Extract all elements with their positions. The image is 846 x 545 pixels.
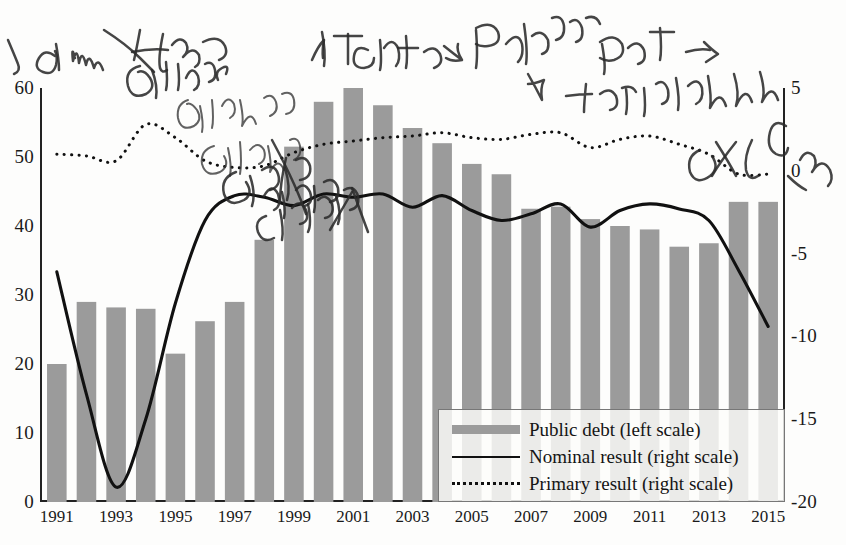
legend-swatch-dotted-line-icon — [449, 482, 523, 485]
legend-item-nominal-result: Nominal result (right scale) — [449, 443, 776, 470]
ink-center — [202, 139, 368, 240]
legend-swatch-bar-icon — [449, 425, 523, 434]
legend-item-primary-result: Primary result (right scale) — [449, 470, 776, 497]
ink-top-left — [8, 30, 294, 132]
legend-swatch-solid-line-icon — [449, 456, 523, 458]
chart-legend: Public debt (left scale) Nominal result … — [438, 409, 785, 502]
legend-label-nominal-result: Nominal result (right scale) — [523, 447, 738, 466]
legend-label-primary-result: Primary result (right scale) — [523, 474, 733, 493]
legend-item-public-debt: Public debt (left scale) — [449, 416, 776, 443]
legend-label-public-debt: Public debt (left scale) — [523, 420, 700, 439]
chart-root: 0 10 20 30 40 50 60 5 0 -5 -10 -15 -20 1… — [0, 0, 846, 545]
ink-top-right — [312, 17, 832, 190]
